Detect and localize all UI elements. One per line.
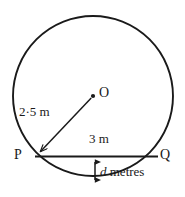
label-point-q: Q [160, 148, 170, 162]
label-point-o: O [99, 86, 109, 100]
label-depth-units: metres [110, 164, 145, 179]
diagram-canvas [0, 0, 185, 197]
label-radius-measure: 2·5 m [19, 105, 50, 118]
center-point-dot [91, 94, 95, 98]
circle-chord-diagram: O P Q 2·5 m 3 m d metres [0, 0, 185, 197]
label-point-p: P [14, 148, 22, 162]
label-depth-variable: d [100, 164, 107, 179]
label-depth-measure: d metres [100, 165, 144, 178]
label-chord-measure: 3 m [89, 132, 109, 145]
